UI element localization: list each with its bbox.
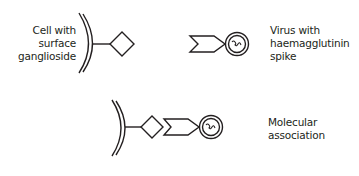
virus-inner-circle [203, 119, 220, 136]
ganglioside-diamond-icon [141, 116, 163, 138]
association-panel [112, 100, 223, 156]
association-label-line-1: Molecular [268, 116, 325, 129]
virus-label: Virus with haemagglutinin spike [270, 24, 350, 63]
virus-panel [190, 33, 249, 56]
cell-label-line-2: surface [18, 37, 76, 50]
cell-label-line-3: ganglioside [18, 50, 76, 63]
virus-inner-circle [229, 36, 246, 53]
haemagglutinin-chevron-icon [164, 119, 199, 135]
cell-panel [79, 13, 134, 73]
ganglioside-diamond-icon [110, 32, 134, 56]
virus-label-line-1: Virus with [270, 24, 350, 37]
genome-squiggle-icon [206, 124, 215, 129]
cell-label: Cell with surface ganglioside [18, 24, 76, 63]
virus-label-line-3: spike [270, 50, 350, 63]
association-label: Molecular association [268, 116, 325, 142]
cell-label-line-1: Cell with [18, 24, 76, 37]
haemagglutinin-chevron-icon [190, 36, 225, 52]
virus-label-line-2: haemagglutinin [270, 37, 350, 50]
association-label-line-2: association [268, 129, 325, 142]
genome-squiggle-icon [232, 41, 241, 46]
